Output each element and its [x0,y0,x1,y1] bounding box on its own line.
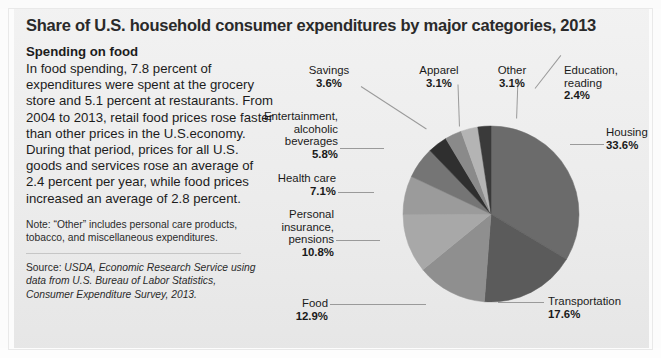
pie-chart-region: Savings 3.6% Apparel 3.1% Other 3.1% Edu… [286,44,646,344]
pie-label-entertainment: Entertainment, alcoholic beverages 5.8% [262,110,338,160]
pie-label-insurance-value: 10.8% [260,246,334,259]
pie-label-food-name: Food [266,297,328,310]
footnote-text: Note: “Other” includes personal care pro… [26,218,262,244]
pie-label-food: Food 12.9% [266,297,328,322]
infographic-panel: Share of U.S. household consumer expendi… [0,0,661,358]
pie-label-apparel-name: Apparel [404,64,474,77]
panel-left-edge [0,0,14,358]
pie-label-savings: Savings 3.6% [294,64,364,89]
pie-label-other-value: 3.1% [482,77,542,90]
pie-label-entertainment-line3: beverages [262,135,338,148]
pie-label-entertainment-line1: Entertainment, [262,110,338,123]
leader-line-food [330,304,426,305]
section-subheading: Spending on food [26,44,274,60]
section-body-text: In food spending, 7.8 percent of expendi… [26,61,274,207]
pie-label-insurance-line3: pensions [260,233,334,246]
left-text-column: Spending on food In food spending, 7.8 p… [26,44,274,301]
pie-label-entertainment-value: 5.8% [262,148,338,161]
leader-line-health [338,192,374,193]
divider-rule [26,253,241,254]
leader-line-housing [570,144,604,145]
pie-label-transportation: Transportation 17.6% [548,295,642,320]
pie-slices [403,126,579,302]
pie-label-health-value: 7.1% [258,185,336,198]
source-citation: Source: USDA, Economic Research Service … [26,261,266,301]
pie-label-insurance-line1: Personal [260,208,334,221]
leader-line-entertainment [340,148,384,149]
panel-top-edge [0,0,661,9]
pie-label-health: Health care 7.1% [258,172,336,197]
pie-label-transportation-value: 17.6% [548,308,642,321]
pie-label-apparel: Apparel 3.1% [404,64,474,89]
pie-label-housing: Housing 33.6% [606,126,661,151]
page-title: Share of U.S. household consumer expendi… [26,16,636,35]
pie-label-savings-value: 3.6% [294,77,364,90]
pie-label-entertainment-line2: alcoholic [262,123,338,136]
pie-label-education: Education, reading 2.4% [564,64,644,102]
pie-label-education-value: 2.4% [564,89,644,102]
pie-label-housing-name: Housing [606,126,661,139]
pie-label-transportation-name: Transportation [548,295,642,308]
leader-line-transportation [498,302,544,303]
pie-label-education-line1: Education, [564,64,644,77]
pie-label-other: Other 3.1% [482,64,542,89]
pie-label-insurance: Personal insurance, pensions 10.8% [260,208,334,258]
pie-label-savings-name: Savings [294,64,364,77]
leader-line-insurance [336,240,380,241]
panel-bottom-edge [0,348,661,358]
source-label: Source: [26,262,64,273]
pie-label-health-name: Health care [258,172,336,185]
panel-right-edge [649,0,661,358]
pie-label-education-line2: reading [564,77,644,90]
pie-label-insurance-line2: insurance, [260,221,334,234]
pie-label-apparel-value: 3.1% [404,77,474,90]
pie-label-other-name: Other [482,64,542,77]
pie-label-food-value: 12.9% [266,310,328,323]
pie-label-housing-value: 33.6% [606,139,661,152]
